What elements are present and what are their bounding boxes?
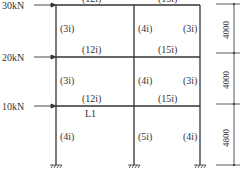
frame-diagram: 30kN 20kN 10kN (12i) (15i) (12i) (15i) (… bbox=[0, 0, 244, 184]
load-label-middle: 20kN bbox=[2, 52, 24, 63]
dimension-bottom: 4800 bbox=[221, 129, 231, 148]
beam-label-bottom-left: (12i) bbox=[82, 93, 101, 105]
column-label-top-middle: (4i) bbox=[138, 23, 152, 35]
column-label-bottom-left: (4i) bbox=[60, 131, 74, 143]
beam-tag-l1: L1 bbox=[85, 108, 96, 119]
beam-label-top-right: (15i) bbox=[158, 0, 177, 5]
column-label-top-right: (3i) bbox=[183, 23, 197, 35]
beam-label-middle-left: (12i) bbox=[82, 44, 101, 56]
beam-label-top-left: (12i) bbox=[82, 0, 101, 5]
fixed-support-icon bbox=[50, 165, 206, 168]
column-label-middle-right: (3i) bbox=[183, 75, 197, 87]
dimension-middle: 4000 bbox=[221, 71, 231, 90]
column-label-bottom-right: (4i) bbox=[183, 131, 197, 143]
load-label-top: 30kN bbox=[2, 0, 24, 11]
dimension-top: 4000 bbox=[221, 21, 231, 40]
load-arrow-icon bbox=[34, 3, 56, 108]
column-label-top-left: (3i) bbox=[60, 23, 74, 35]
column-label-middle-middle: (4i) bbox=[138, 75, 152, 87]
beam-label-bottom-right: (15i) bbox=[158, 93, 177, 105]
column-label-middle-left: (3i) bbox=[60, 75, 74, 87]
column-label-bottom-middle: (5i) bbox=[138, 131, 152, 143]
beam-label-middle-right: (15i) bbox=[158, 44, 177, 56]
load-label-bottom: 10kN bbox=[2, 101, 24, 112]
